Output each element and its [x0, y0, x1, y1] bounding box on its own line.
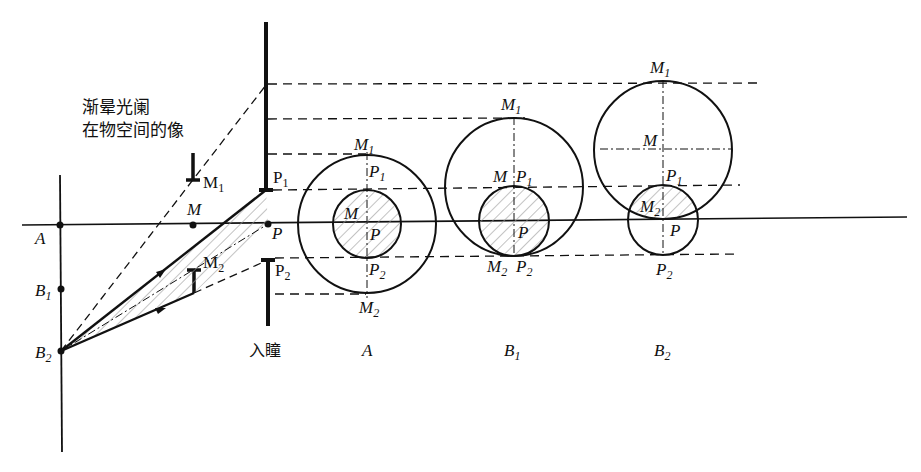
caseA-M: M: [343, 204, 359, 223]
caseA-P1: P1: [368, 162, 385, 184]
caseB1-M: M: [492, 167, 508, 186]
caseA-P: P: [369, 225, 380, 244]
stop-image-title-line1: 渐晕光阑: [82, 97, 150, 117]
label-entrance-pupil: 入瞳: [249, 341, 281, 360]
caseA-label: A: [361, 341, 373, 360]
point-A-dot: [57, 222, 64, 229]
label-B2: B2: [35, 343, 51, 365]
caseA-P2: P2: [368, 260, 385, 282]
object-plane-line: [60, 175, 62, 452]
point-B1-dot: [58, 286, 65, 293]
caseB1-P1: P1: [515, 167, 532, 189]
arrow-lower-icon: [155, 308, 166, 314]
caseA-M1: M1: [353, 135, 374, 157]
case-B2-diagram: [594, 80, 732, 256]
optical-axis: [22, 217, 907, 225]
caseB2-M: M: [642, 131, 658, 150]
caseB2-M1: M1: [649, 58, 670, 80]
label-P1-pupil: P1: [273, 168, 288, 190]
caseB2-P: P: [669, 221, 680, 240]
label-A: A: [34, 229, 46, 248]
caseB2-P1: P1: [665, 166, 682, 188]
caseB2-P2: P2: [655, 260, 672, 282]
caseB1-P2: P2: [515, 257, 532, 279]
label-P2-pupil: P2: [275, 261, 290, 283]
point-M-dot: [190, 222, 197, 229]
stop-image-title-line2: 在物空间的像: [82, 120, 184, 140]
label-M-stop: M: [186, 200, 202, 219]
caseB1-label: B1: [504, 341, 520, 363]
caseA-M2: M2: [358, 298, 379, 320]
caseB1-M1: M1: [500, 95, 521, 117]
dash-h-2: [268, 118, 525, 119]
vignetting-diagram: 渐晕光阑 在物空间的像 A B1 B2 M M1 M2 P1 P P2 入瞳 M…: [0, 0, 921, 472]
caseB2-label: B2: [654, 341, 670, 363]
label-M1-stop: M1: [203, 173, 224, 195]
caseB1-P: P: [517, 223, 528, 242]
label-B1: B1: [35, 281, 51, 303]
case-A-diagram: [298, 152, 436, 298]
label-P-pupil: P: [271, 224, 282, 243]
caseB1-M2: M2: [486, 257, 507, 279]
dash-h-1: [268, 83, 760, 84]
